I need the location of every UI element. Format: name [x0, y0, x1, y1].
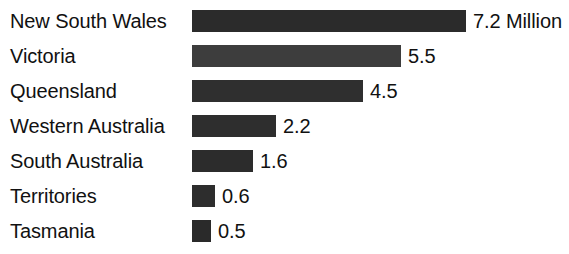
value-label: 0.5 — [218, 221, 246, 241]
value-label: 2.2 — [283, 116, 311, 136]
value-label: 1.6 — [260, 151, 288, 171]
category-label: Western Australia — [10, 116, 165, 136]
bar-row: New South Wales7.2 Million — [0, 3, 569, 38]
bar-row: Victoria5.5 — [0, 38, 569, 73]
bar — [192, 10, 466, 32]
value-label: 5.5 — [408, 46, 436, 66]
value-label: 0.6 — [222, 186, 250, 206]
category-label: New South Wales — [10, 11, 167, 31]
bar-row: Western Australia2.2 — [0, 108, 569, 143]
category-label: Territories — [10, 186, 97, 206]
bar — [192, 185, 215, 207]
bar — [192, 80, 363, 102]
bar-row: Queensland4.5 — [0, 73, 569, 108]
value-label: 4.5 — [370, 81, 398, 101]
bar-row: Territories0.6 — [0, 178, 569, 213]
bar-track — [192, 80, 363, 102]
bar — [192, 220, 211, 242]
bar-track — [192, 45, 401, 67]
bar-track — [192, 220, 211, 242]
bar-row: South Australia1.6 — [0, 143, 569, 178]
bar — [192, 150, 253, 172]
bar-chart: New South Wales7.2 MillionVictoria5.5Que… — [0, 0, 569, 254]
bar-track — [192, 115, 276, 137]
bar-track — [192, 150, 253, 172]
bar-track — [192, 185, 215, 207]
bar-row: Tasmania0.5 — [0, 213, 569, 248]
bar — [192, 45, 401, 67]
value-label: 7.2 Million — [473, 11, 562, 31]
category-label: Tasmania — [10, 221, 95, 241]
category-label: Victoria — [10, 46, 76, 66]
bar — [192, 115, 276, 137]
bar-track — [192, 10, 466, 32]
category-label: Queensland — [10, 81, 117, 101]
category-label: South Australia — [10, 151, 143, 171]
